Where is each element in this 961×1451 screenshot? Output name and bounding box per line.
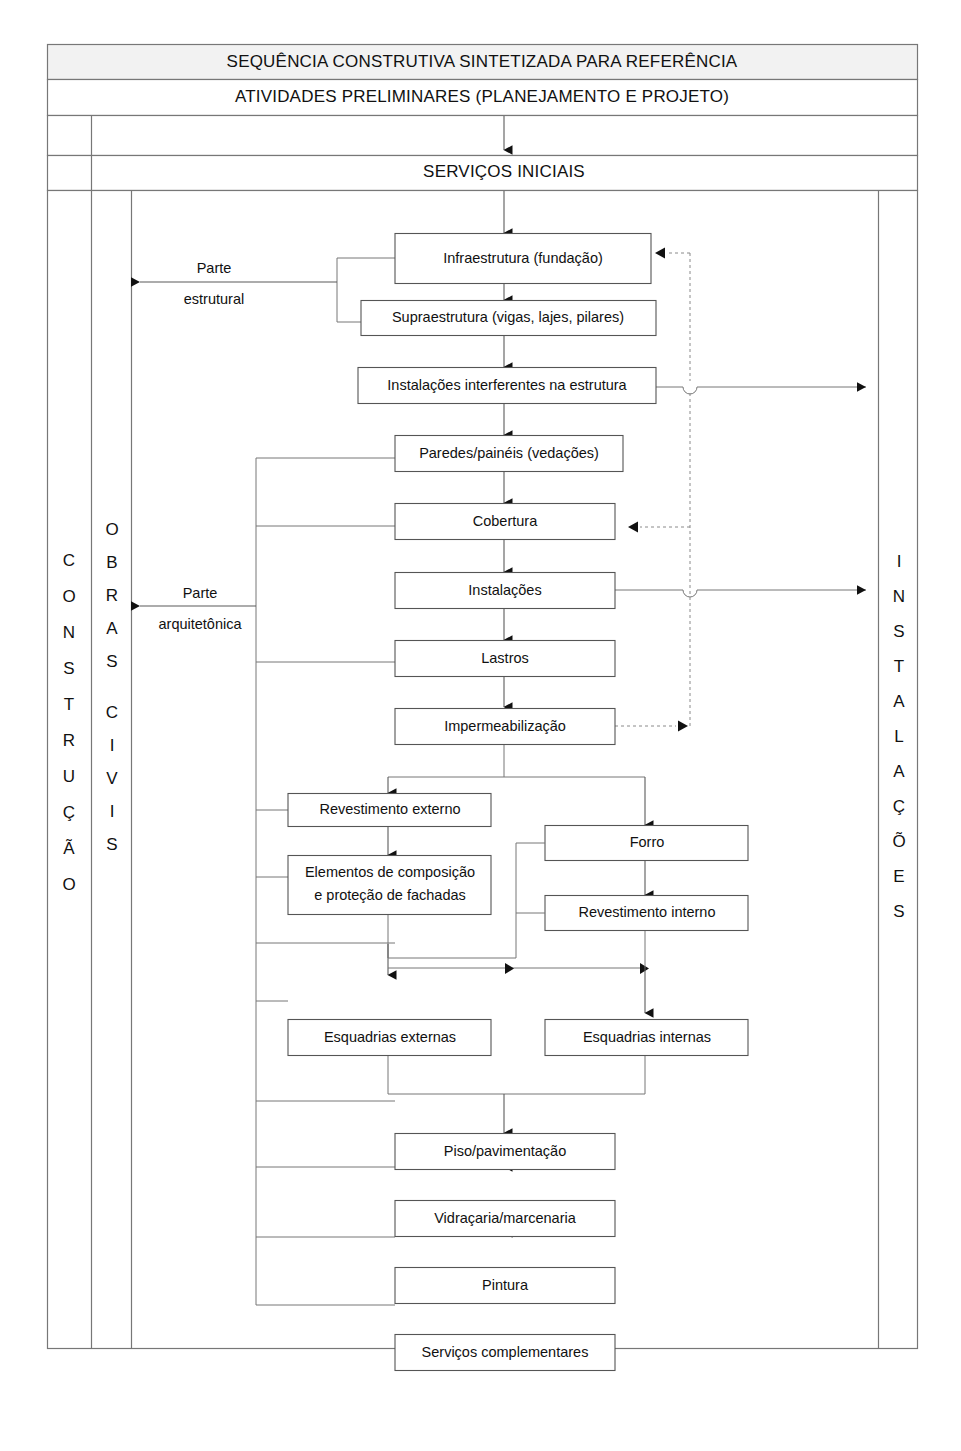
svg-text:E: E — [893, 867, 904, 886]
svg-text:Ç: Ç — [893, 797, 905, 816]
node-piso[interactable]: Piso/pavimentação — [395, 1134, 615, 1170]
svg-text:S: S — [893, 622, 904, 641]
svg-text:O: O — [62, 587, 75, 606]
svg-text:S: S — [893, 902, 904, 921]
svg-text:I: I — [110, 736, 115, 755]
svg-text:T: T — [894, 657, 904, 676]
node-esquadrias-externas-label: Esquadrias externas — [324, 1029, 456, 1045]
node-impermeabilizacao[interactable]: Impermeabilização — [395, 709, 615, 745]
node-piso-label: Piso/pavimentação — [444, 1143, 567, 1159]
svg-text:O: O — [105, 520, 118, 539]
svg-text:A: A — [893, 762, 905, 781]
node-supraestrutura[interactable]: Supraestrutura (vigas, lajes, pilares) — [361, 301, 656, 336]
svg-text:B: B — [106, 553, 117, 572]
band-preliminary-label: ATIVIDADES PRELIMINARES (PLANEJAMENTO E … — [235, 87, 729, 106]
node-instalacoes-interferentes-label: Instalações interferentes na estrutura — [387, 377, 627, 393]
svg-text:N: N — [893, 587, 905, 606]
node-esquadrias-internas[interactable]: Esquadrias internas — [545, 1020, 748, 1056]
node-elementos-composicao-label-line2: e proteção de fachadas — [314, 887, 466, 903]
node-paredes-label: Paredes/painéis (vedações) — [419, 445, 599, 461]
node-vidracaria-label: Vidraçaria/marcenaria — [434, 1210, 577, 1226]
label-parte-arquitetonica-line2: arquitetônica — [158, 616, 242, 632]
node-impermeabilizacao-label: Impermeabilização — [444, 718, 566, 734]
svg-text:N: N — [63, 623, 75, 642]
node-lastros-label: Lastros — [481, 650, 529, 666]
svg-text:C: C — [106, 703, 118, 722]
svg-text:I: I — [110, 802, 115, 821]
svg-text:S: S — [106, 652, 117, 671]
svg-text:C: C — [63, 551, 75, 570]
node-infraestrutura-label: Infraestrutura (fundação) — [443, 250, 603, 266]
node-cobertura-label: Cobertura — [473, 513, 538, 529]
node-paredes[interactable]: Paredes/painéis (vedações) — [395, 436, 623, 472]
svg-text:S: S — [106, 835, 117, 854]
band-initial-label: SERVIÇOS INICIAIS — [423, 162, 585, 181]
svg-text:V: V — [106, 769, 118, 788]
node-elementos-composicao[interactable]: Elementos de composição e proteção de fa… — [288, 856, 491, 915]
node-lastros[interactable]: Lastros — [395, 641, 615, 677]
label-parte-arquitetonica-line1: Parte — [183, 585, 218, 601]
svg-text:R: R — [63, 731, 75, 750]
node-supraestrutura-label: Supraestrutura (vigas, lajes, pilares) — [392, 309, 624, 325]
svg-text:A: A — [893, 692, 905, 711]
svg-text:U: U — [63, 767, 75, 786]
svg-text:I: I — [897, 552, 902, 571]
svg-text:Ã: Ã — [63, 839, 75, 858]
node-revestimento-interno[interactable]: Revestimento interno — [545, 896, 748, 931]
node-pintura[interactable]: Pintura — [395, 1268, 615, 1304]
node-infraestrutura[interactable]: Infraestrutura (fundação) — [395, 234, 651, 284]
node-esquadrias-internas-label: Esquadrias internas — [583, 1029, 711, 1045]
node-esquadrias-externas[interactable]: Esquadrias externas — [288, 1020, 491, 1056]
label-parte-estrutural-line2: estrutural — [184, 291, 244, 307]
svg-text:R: R — [106, 586, 118, 605]
node-revestimento-externo[interactable]: Revestimento externo — [288, 794, 491, 827]
svg-text:A: A — [106, 619, 118, 638]
node-instalacoes[interactable]: Instalações — [395, 573, 615, 609]
svg-text:T: T — [64, 695, 74, 714]
node-elementos-composicao-label-line1: Elementos de composição — [305, 864, 475, 880]
svg-text:Ç: Ç — [63, 803, 75, 822]
label-parte-estrutural-line1: Parte — [197, 260, 232, 276]
node-instalacoes-label: Instalações — [468, 582, 541, 598]
diagram-title: SEQUÊNCIA CONSTRUTIVA SINTETIZADA PARA R… — [227, 52, 738, 71]
node-pintura-label: Pintura — [482, 1277, 529, 1293]
node-revestimento-externo-label: Revestimento externo — [319, 801, 460, 817]
svg-text:Õ: Õ — [892, 832, 905, 851]
svg-text:L: L — [894, 727, 903, 746]
flowchart-svg: SEQUÊNCIA CONSTRUTIVA SINTETIZADA PARA R… — [0, 0, 961, 1451]
node-servicos-complementares-label: Serviços complementares — [422, 1344, 589, 1360]
node-forro-label: Forro — [630, 834, 665, 850]
svg-text:S: S — [63, 659, 74, 678]
node-vidracaria[interactable]: Vidraçaria/marcenaria — [395, 1201, 615, 1237]
node-servicos-complementares[interactable]: Serviços complementares — [395, 1335, 615, 1371]
node-instalacoes-interferentes[interactable]: Instalações interferentes na estrutura — [358, 368, 656, 404]
diagram-canvas: SEQUÊNCIA CONSTRUTIVA SINTETIZADA PARA R… — [0, 0, 961, 1451]
svg-text:O: O — [62, 875, 75, 894]
node-forro[interactable]: Forro — [545, 826, 748, 861]
node-revestimento-interno-label: Revestimento interno — [578, 904, 715, 920]
node-cobertura[interactable]: Cobertura — [395, 504, 615, 540]
